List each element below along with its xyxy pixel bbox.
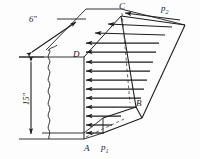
break-line-wavy [48,45,57,139]
wall-solid [42,9,121,139]
wall-top-back-edge [46,9,86,50]
pressure-arrow-top-2 [108,24,172,27]
dashed-edge-near-a [86,119,124,137]
pressure-label-p1: p1 [101,143,109,154]
dimension-label-thickness: 6″ [29,15,37,24]
pressure-arrow-top-3 [95,33,165,35]
dimension-label-height: 15″ [22,93,31,105]
point-label-c: C [119,2,125,11]
hidden-dashed-lines [86,13,130,137]
pressure-prism-outline [84,9,185,139]
dim-thickness-line [32,22,76,52]
pressure-arrows-top-face [95,13,180,35]
prism-b-vertical [136,107,142,118]
point-label-b: B [136,99,142,108]
pressure-distribution-figure: 6″ 15″ A B C D p1 p2 [0,0,200,159]
pressure-p2-subscript: 2 [166,9,169,15]
point-label-a: A [84,144,90,153]
point-label-d: D [73,50,80,59]
wall-top-receding-edge [84,16,121,57]
pressure-p1-subscript: 1 [106,148,109,154]
pressure-label-p2: p2 [161,4,169,15]
pressure-arrow-top-1 [125,13,180,20]
